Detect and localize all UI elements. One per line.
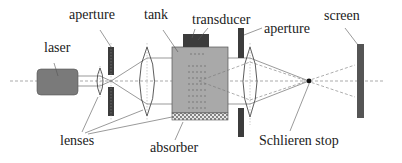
beam-converge-bottom (100, 81, 111, 86)
label-tank: tank (144, 7, 168, 22)
schlieren-diagram: laser aperture tank transducer aperture … (0, 0, 402, 163)
absorber (172, 113, 228, 120)
schlieren-stop (307, 79, 312, 84)
collimating-lens (140, 47, 155, 116)
label-aperture-right: aperture (264, 21, 310, 36)
aperture-right-top (238, 28, 244, 58)
label-aperture-left: aperture (69, 7, 115, 22)
focused-beam-bottom (250, 81, 309, 104)
laser (37, 69, 78, 95)
screen (357, 44, 364, 118)
transducer (183, 34, 209, 47)
aperture-right-bottom (238, 108, 244, 137)
label-screen: screen (324, 8, 360, 23)
focused-beam-top (250, 58, 309, 81)
label-laser: laser (44, 40, 71, 55)
label-schlieren-stop: Schlieren stop (259, 133, 339, 148)
label-transducer: transducer (192, 12, 251, 27)
label-absorber: absorber (150, 140, 199, 155)
tank (172, 47, 228, 113)
beam-converge-top (100, 76, 111, 81)
label-lenses: lenses (60, 133, 94, 148)
